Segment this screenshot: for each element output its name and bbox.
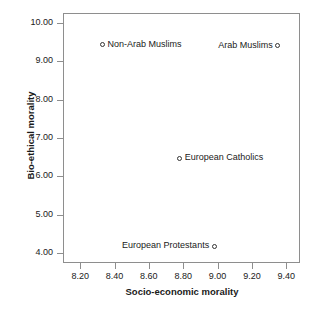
scatter-plot-figure: Bio-ethical morality Socio-economic mora… <box>0 0 313 309</box>
y-tick-label: 10.00 <box>5 17 53 27</box>
data-point-label: Arab Muslims <box>218 40 273 50</box>
y-tick-mark <box>57 23 63 24</box>
y-tick-label: 9.00 <box>5 55 53 65</box>
x-tick-mark <box>286 263 287 269</box>
y-tick-label: 8.00 <box>5 94 53 104</box>
plot-area <box>63 13 300 263</box>
y-tick-mark <box>57 100 63 101</box>
y-tick-mark <box>57 138 63 139</box>
x-tick-label: 9.40 <box>266 271 306 281</box>
y-tick-mark <box>57 61 63 62</box>
data-point-label: European Catholics <box>185 152 264 162</box>
y-tick-mark <box>57 215 63 216</box>
y-tick-label: 5.00 <box>5 209 53 219</box>
y-tick-label: 7.00 <box>5 132 53 142</box>
y-tick-label: 4.00 <box>5 247 53 257</box>
y-tick-mark <box>57 176 63 177</box>
x-tick-mark <box>183 263 184 269</box>
x-tick-mark <box>115 263 116 269</box>
data-point-marker[interactable] <box>177 156 182 161</box>
data-point-label: European Protestants <box>122 240 209 250</box>
x-tick-mark <box>80 263 81 269</box>
y-tick-mark <box>57 253 63 254</box>
x-tick-mark <box>252 263 253 269</box>
data-point-marker[interactable] <box>212 244 217 249</box>
y-tick-label: 6.00 <box>5 170 53 180</box>
x-tick-mark <box>218 263 219 269</box>
x-tick-mark <box>149 263 150 269</box>
data-point-label: Non-Arab Muslims <box>108 39 182 49</box>
x-axis-title: Socio-economic morality <box>63 286 301 297</box>
